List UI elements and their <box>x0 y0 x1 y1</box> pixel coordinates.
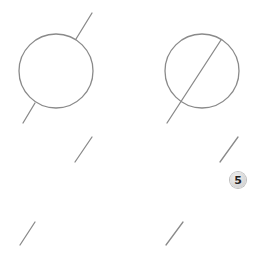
slash-3 <box>20 222 35 245</box>
slash-1 <box>75 137 92 162</box>
left-line-lower-segment <box>23 103 35 123</box>
left-line-upper-segment <box>76 13 92 39</box>
slash-2 <box>220 137 238 162</box>
left-circle <box>19 34 93 108</box>
diagram-canvas <box>0 0 261 253</box>
figure-circle-through-line <box>165 34 239 123</box>
slash-4 <box>166 222 183 245</box>
right-circle <box>165 34 239 108</box>
number-badge: 5 <box>230 172 246 188</box>
right-through-line <box>167 40 221 123</box>
figure-circle-interrupted-line <box>19 13 93 123</box>
